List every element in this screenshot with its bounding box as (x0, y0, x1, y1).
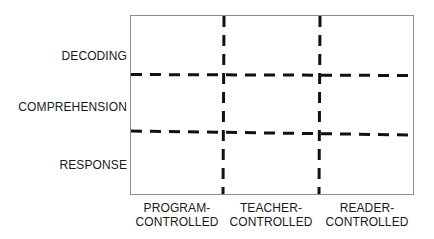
column-label-program-controlled: PROGRAM- CONTROLLED (129, 201, 225, 229)
column-label-teacher-controlled: TEACHER- CONTROLLED (223, 201, 319, 229)
column-label-reader-controlled: READER- CONTROLLED (319, 201, 415, 229)
row-divider-1 (131, 75, 413, 76)
row-divider-2 (131, 131, 413, 135)
row-label-decoding: DECODING (62, 49, 127, 63)
column-divider-1 (223, 16, 224, 194)
row-label-comprehension: COMPREHENSION (18, 100, 127, 114)
column-divider-2 (319, 16, 320, 194)
row-label-response: RESPONSE (60, 158, 128, 172)
